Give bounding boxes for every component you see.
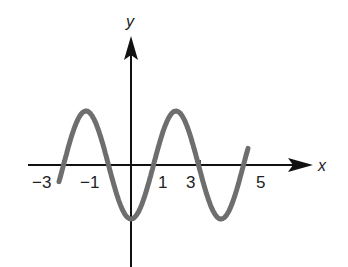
x-tick-label: −1 <box>80 173 99 192</box>
x-tick-label: 5 <box>256 173 265 192</box>
y-axis-label: y <box>125 13 135 30</box>
x-tick-label: −3 <box>32 173 51 192</box>
sine-graph-figure: x y −3 −1 1 3 5 <box>0 0 348 267</box>
graph-canvas: x y −3 −1 1 3 5 <box>0 0 348 267</box>
x-tick-label: 3 <box>186 173 195 192</box>
x-axis-label: x <box>317 157 327 174</box>
x-tick-label: 1 <box>158 173 167 192</box>
